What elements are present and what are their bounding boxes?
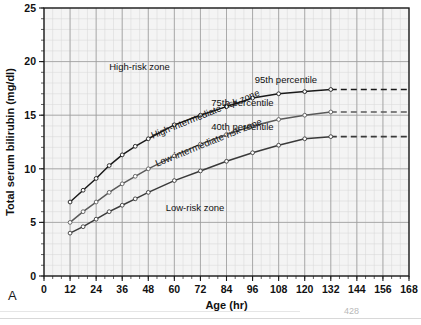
footer-divider — [0, 318, 421, 319]
svg-text:20: 20 — [24, 55, 36, 67]
svg-text:0: 0 — [30, 270, 36, 282]
high-risk-zone-label: High-risk zone — [109, 61, 170, 72]
bilirubin-nomogram-figure: 0122436486072849610812013214415616805101… — [0, 0, 421, 325]
svg-text:60: 60 — [169, 283, 181, 295]
svg-text:96: 96 — [247, 283, 259, 295]
svg-text:132: 132 — [322, 283, 340, 295]
svg-text:24: 24 — [90, 283, 102, 295]
svg-text:84: 84 — [221, 283, 233, 295]
svg-text:168: 168 — [400, 283, 418, 295]
series-label-75th: 75th percentile — [211, 97, 273, 108]
svg-text:15: 15 — [24, 109, 36, 121]
svg-text:5: 5 — [30, 216, 36, 228]
page-number: 428 — [344, 306, 359, 316]
low-risk-zone-label: Low-risk zone — [166, 202, 225, 213]
svg-text:25: 25 — [24, 2, 36, 14]
chart-canvas: 0122436486072849610812013214415616805101… — [0, 0, 421, 325]
panel-label: A — [8, 288, 17, 303]
series-label-40th: 40th percentile — [211, 121, 273, 132]
svg-text:156: 156 — [374, 283, 392, 295]
svg-text:144: 144 — [348, 283, 366, 295]
series-label-95th: 95th percentile — [255, 74, 317, 85]
x-axis-label: Age (hr) — [205, 299, 248, 311]
svg-text:0: 0 — [41, 283, 47, 295]
svg-text:120: 120 — [296, 283, 314, 295]
x-axis-ticks: 01224364860728496108120132144156168 — [41, 276, 418, 295]
svg-text:12: 12 — [64, 283, 76, 295]
svg-text:108: 108 — [270, 283, 288, 295]
svg-text:36: 36 — [116, 283, 128, 295]
y-axis-ticks: 0510152025 — [24, 2, 44, 282]
y-axis-label: Total serum bilirubin (mg/dl) — [4, 68, 16, 216]
svg-text:48: 48 — [142, 283, 154, 295]
svg-text:72: 72 — [195, 283, 207, 295]
svg-text:10: 10 — [24, 163, 36, 175]
footer-divider-secondary — [0, 311, 300, 312]
